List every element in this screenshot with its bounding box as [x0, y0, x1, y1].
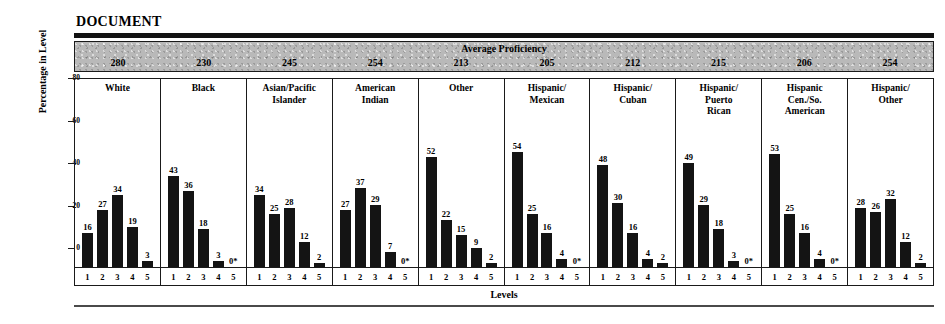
x-axis-tick-row: 1234512345123451234512345123451234512345… [74, 268, 934, 286]
bar [370, 205, 381, 267]
x-tick-group: 12345 [161, 268, 247, 285]
x-axis-tick-label: 3 [198, 272, 209, 282]
x-axis-tick-label: 2 [269, 272, 280, 282]
bar-slot: 52 [426, 147, 437, 268]
bar [168, 176, 179, 267]
bar [471, 248, 482, 267]
panel-white: White162734193 [75, 79, 161, 267]
panel-asian-pacific-islander: Asian/PacificIslander342528122 [247, 79, 333, 267]
average-proficiency-value: 254 [332, 57, 418, 71]
bar-value-label: 18 [715, 219, 724, 228]
bar-value-label: 34 [113, 185, 122, 194]
bar-slot: 0* [571, 257, 582, 267]
x-tick-group: 12345 [676, 268, 762, 285]
bar-slot: 32 [885, 189, 896, 267]
bar [97, 210, 108, 267]
bar-slot: 4 [556, 249, 567, 268]
bar-value-label: 16 [629, 223, 638, 232]
x-axis-tick-label: 5 [829, 272, 840, 282]
bar-slot: 2 [915, 253, 926, 267]
bar-slot: 27 [97, 200, 108, 267]
bar-value-label: 28 [285, 198, 294, 207]
x-axis-tick-label: 1 [683, 272, 694, 282]
x-axis-tick-label: 3 [456, 272, 467, 282]
x-axis-tick-label: 1 [512, 272, 523, 282]
bar-slot: 16 [799, 223, 810, 267]
bar [900, 242, 911, 268]
x-axis-tick-label: 5 [657, 272, 668, 282]
bar-slot: 0* [743, 257, 754, 267]
bar-value-label: 9 [474, 238, 478, 247]
panel-other: Other52221592 [419, 79, 505, 267]
bar [612, 203, 623, 267]
bar-slot: 26 [870, 202, 881, 267]
panel-black: Black43361830* [161, 79, 247, 267]
bar-value-label: 12 [901, 232, 910, 241]
bar [556, 259, 567, 268]
x-axis-tick-label: 2 [527, 272, 538, 282]
bar-group: 342528122 [247, 97, 332, 267]
bar-slot: 53 [769, 144, 780, 267]
bar-value-label: 16 [800, 223, 809, 232]
bar-value-label: 0* [830, 257, 839, 266]
bar [127, 227, 138, 267]
bar-slot: 12 [900, 232, 911, 268]
bar-value-label: 3 [732, 251, 736, 260]
bar [512, 152, 523, 267]
average-proficiency-value: 280 [75, 57, 161, 71]
x-axis-tick-label: 5 [743, 272, 754, 282]
x-axis-tick-label: 5 [228, 272, 239, 282]
bar-group: 162734193 [75, 97, 160, 267]
x-axis-tick-label: 5 [915, 272, 926, 282]
bar-value-label: 43 [169, 166, 178, 175]
title-divider [74, 33, 934, 38]
bar-value-label: 3 [216, 251, 220, 260]
bar-slot: 12 [299, 232, 310, 268]
bar-slot: 34 [112, 185, 123, 267]
bar-slot: 3 [728, 251, 739, 267]
bar-value-label: 26 [871, 202, 880, 211]
x-axis-tick-label: 4 [471, 272, 482, 282]
bar [870, 212, 881, 267]
bar-value-label: 2 [317, 253, 321, 262]
x-tick-group: 12345 [762, 268, 848, 285]
bar-value-label: 36 [184, 181, 193, 190]
bar-slot: 36 [183, 181, 194, 268]
bar-slot: 0* [400, 257, 411, 267]
bar-slot: 43 [168, 166, 179, 267]
bar-value-label: 37 [356, 178, 365, 187]
x-axis-title: Levels [74, 289, 934, 300]
bar-group: 27372970* [333, 97, 418, 267]
bar [486, 263, 497, 267]
x-axis-tick-label: 1 [82, 272, 93, 282]
x-axis-tick-label: 1 [426, 272, 437, 282]
bar-slot: 29 [698, 195, 709, 267]
bar-slot: 18 [713, 219, 724, 267]
bar-slot: 2 [486, 253, 497, 267]
x-axis-tick-label: 3 [713, 272, 724, 282]
bar [527, 214, 538, 267]
x-tick-group: 12345 [419, 268, 505, 285]
x-axis-tick-label: 2 [441, 272, 452, 282]
bar-slot: 29 [370, 195, 381, 267]
bar-slot: 28 [855, 198, 866, 268]
bar-slot: 16 [541, 223, 552, 267]
x-axis-tick-label: 4 [642, 272, 653, 282]
bar-group: 54251640* [505, 97, 590, 267]
page-title: DOCUMENT [76, 14, 162, 30]
bar-slot: 37 [355, 178, 366, 267]
bar [855, 208, 866, 268]
bar [299, 242, 310, 268]
x-axis-tick-label: 1 [597, 272, 608, 282]
bar-value-label: 4 [560, 249, 564, 258]
bar-slot: 15 [456, 225, 467, 267]
bar-value-label: 29 [371, 195, 380, 204]
x-axis-tick-label: 4 [127, 272, 138, 282]
bar-value-label: 4 [646, 249, 650, 258]
bar [784, 214, 795, 267]
bar-slot: 28 [284, 198, 295, 268]
x-tick-group: 12345 [848, 268, 933, 285]
bar-slot: 4 [642, 249, 653, 268]
bar-value-label: 2 [918, 253, 922, 262]
bar-value-label: 25 [528, 204, 537, 213]
